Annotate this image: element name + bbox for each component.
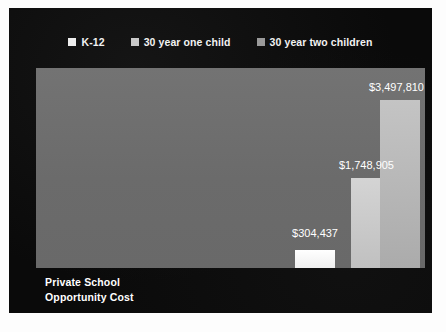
legend-label-30-year-two-children: 30 year two children <box>270 37 373 48</box>
chart-slide: K-12 30 year one child 30 year two child… <box>9 8 432 313</box>
chart-legend: K-12 30 year one child 30 year two child… <box>9 32 432 52</box>
legend-label-k-12: K-12 <box>81 37 104 48</box>
square-swatch-icon <box>257 38 265 46</box>
square-swatch-icon <box>68 38 76 46</box>
legend-item-30-year-one-child: 30 year one child <box>131 37 231 48</box>
slide-image: K-12 30 year one child 30 year two child… <box>0 0 446 332</box>
legend-item-30-year-two-children: 30 year two children <box>257 37 373 48</box>
bar-value-label-30-year-one-child: $1,748,905 <box>294 160 394 171</box>
legend-item-k-12: K-12 <box>68 37 104 48</box>
chart-plot-area: $304,437 $1,748,905 $3,497,810 <box>36 68 425 268</box>
caption-line-1: Private School <box>45 275 134 290</box>
legend-label-30-year-one-child: 30 year one child <box>144 37 231 48</box>
bar-value-label-k-12: $304,437 <box>252 228 338 239</box>
bar-fill-k-12 <box>295 250 335 268</box>
chart-caption: Private School Opportunity Cost <box>45 275 134 305</box>
bar-k-12 <box>295 250 335 268</box>
caption-line-2: Opportunity Cost <box>45 290 134 305</box>
bar-30-year-two-children <box>380 100 420 268</box>
bar-fill-30-year-two-children <box>380 100 420 268</box>
bar-value-label-30-year-two-children: $3,497,810 <box>321 82 424 93</box>
square-swatch-icon <box>131 38 139 46</box>
